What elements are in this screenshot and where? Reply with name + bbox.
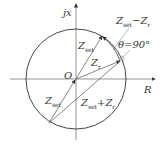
zset-plus-zr-line [49,61,120,123]
zset-plus-zr-label: Zset+Zr [81,98,115,110]
angle-label: θ=90° [118,40,150,50]
r-axis-label: R [144,85,152,95]
zr-label: Zr [91,58,101,70]
origin-label: O [64,71,72,81]
zset-lower-label: Zset [45,96,61,108]
angle-leader [121,50,130,59]
zset-upper-label: Zset [78,41,94,53]
zset-minus-zr-label: Zset−Zr [116,16,150,28]
jx-axis-label: jx [63,8,72,18]
